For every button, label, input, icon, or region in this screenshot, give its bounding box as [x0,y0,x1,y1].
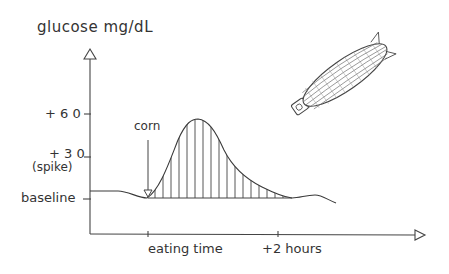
x-axis [90,230,425,240]
y-tick-label-baseline: baseline [21,190,75,205]
corn-arrow [144,140,152,197]
y-axis [84,49,96,234]
y-tick-label-spike: (spike) [32,160,72,174]
glucose-curve [90,119,336,203]
y-tick-label-30: + 3 0 [49,146,85,161]
y-axis-title: glucose mg/dL [37,18,153,36]
corn-annotation-label: corn [134,119,160,133]
y-tick-label-60: + 6 0 [45,106,81,121]
corn-cob-icon [285,31,398,123]
x-tick-label-eating-time: eating time [148,241,223,256]
x-tick-label-2-hours: +2 hours [262,241,322,256]
spike-hatch [155,110,283,200]
glucose-chart: glucose mg/dL + 6 0 + 3 0 (spike) baseli… [0,0,449,274]
